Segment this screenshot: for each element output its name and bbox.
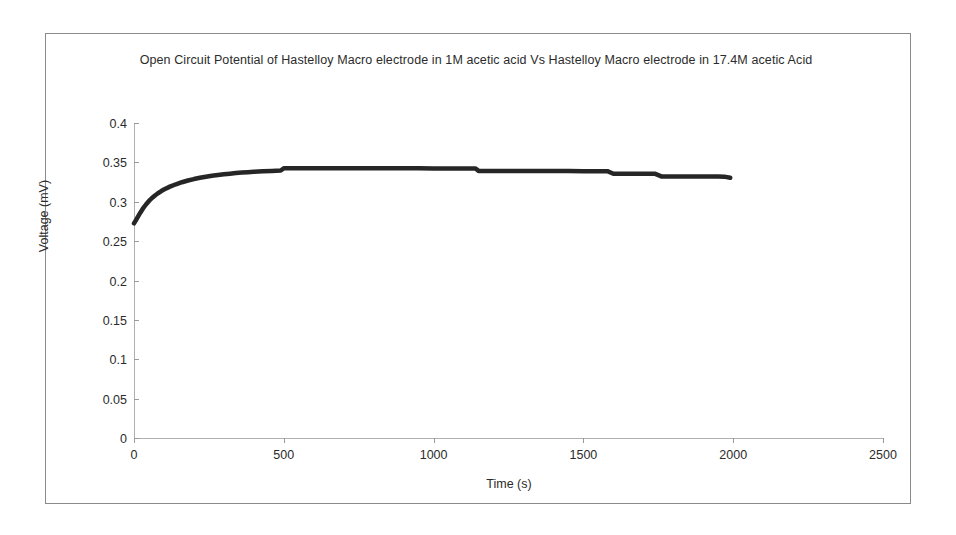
x-axis-tick-mark	[883, 438, 884, 443]
y-axis-tick-label: 0.25	[46, 232, 134, 250]
y-axis-tick-label: 0.3	[46, 193, 134, 211]
y-axis-tick-label: 0.4	[46, 114, 134, 132]
chart-frame: Open Circuit Potential of Hastelloy Macr…	[45, 33, 911, 504]
data-series-svg	[134, 123, 883, 438]
y-axis-tick-label: 0.05	[46, 390, 134, 408]
plot-area	[134, 123, 883, 438]
x-axis-line	[134, 438, 884, 439]
chart-title: Open Circuit Potential of Hastelloy Macr…	[116, 51, 836, 70]
x-axis-tick-label: 500	[273, 448, 294, 462]
x-axis-tick-mark	[733, 438, 734, 443]
x-axis-tick-mark	[434, 438, 435, 443]
y-axis-tick-label: 0.15	[46, 311, 134, 329]
x-axis-tick-mark	[284, 438, 285, 443]
y-axis-tick-label: 0.1	[46, 350, 134, 368]
x-axis-tick-label: 2500	[869, 448, 897, 462]
x-axis-tick-label: 0	[131, 448, 138, 462]
x-axis-title: Time (s)	[134, 477, 884, 491]
x-axis-tick-label: 2000	[719, 448, 747, 462]
y-axis-tick-label: 0	[46, 429, 134, 447]
x-axis-tick-mark	[583, 438, 584, 443]
y-axis-tick-label: 0.2	[46, 272, 134, 290]
series-line-open-circuit-potential	[134, 168, 730, 223]
x-axis-tick-mark	[134, 438, 135, 443]
x-axis-tick-label: 1000	[420, 448, 448, 462]
x-axis-tick-label: 1500	[569, 448, 597, 462]
y-axis-tick-label: 0.35	[46, 153, 134, 171]
